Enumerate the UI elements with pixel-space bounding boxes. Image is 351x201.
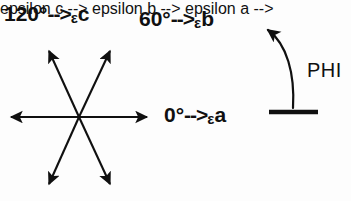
axis-arrow-upper-left [49,51,79,117]
axis-arrow-lower-right [79,117,110,184]
axis-c-arrow-glyph: --> [47,2,70,25]
axis-c-name: c [78,2,90,25]
axis-arrow-upper-right [79,51,110,117]
axis-label-c: 120°-->εc [4,3,90,25]
phi-label: PHI [307,60,342,80]
axis-b-name: b [201,7,214,30]
axis-a-arrow-glyph: --> [184,103,207,126]
axis-b-angle: 60° [139,7,171,30]
star-axes [11,51,147,184]
phi-curved-arrow [268,30,293,108]
axis-label-a: 0°-->εa [164,104,226,126]
vector-figure [0,0,351,201]
axis-label-b: 60°-->εb [139,8,214,30]
axis-b-arrow-glyph: --> [171,7,194,30]
axis-a-angle: 0° [164,103,184,126]
figure-canvas: epsilon c --> 120°-->εc epsilon b --> 60… [0,0,351,201]
axis-arrow-lower-left [49,117,79,184]
axis-c-epsilon: ε [71,9,78,26]
axis-c-angle: 120° [4,2,47,25]
axis-a-name: a [214,103,226,126]
